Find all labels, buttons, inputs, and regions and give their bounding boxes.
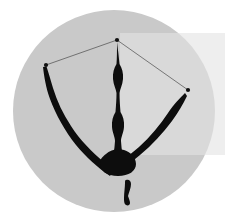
landmark-point-right-tip[interactable]	[186, 88, 190, 92]
figure-canvas	[0, 0, 225, 219]
landmark-point-apex[interactable]	[115, 38, 119, 42]
landmark-point-left-tip[interactable]	[44, 63, 48, 67]
light-overlay-band	[120, 33, 225, 155]
specimen-figure	[0, 0, 225, 219]
